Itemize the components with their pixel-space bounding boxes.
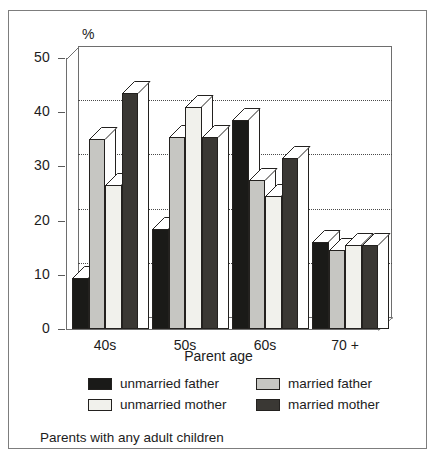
bar-married-father-50s[interactable] <box>169 137 186 329</box>
y-axis-tick-label: 30 <box>16 157 50 173</box>
y-axis-tick-mark <box>58 166 65 167</box>
bar-married-mother-40s[interactable] <box>122 93 139 329</box>
legend-swatch-icon <box>88 378 112 390</box>
bar-unmarried-mother-70+[interactable] <box>345 245 362 329</box>
bar-unmarried-father-60s[interactable] <box>232 120 249 329</box>
legend-swatch-icon <box>256 378 280 390</box>
bar-married-father-60s[interactable] <box>249 180 266 329</box>
y-axis-tick-label: 20 <box>16 212 50 228</box>
y-axis-tick-mark <box>58 221 65 222</box>
y-axis-unit-label: % <box>82 26 94 42</box>
bar-side-face <box>217 125 229 329</box>
legend-swatch-icon <box>88 399 112 411</box>
bar-unmarried-mother-50s[interactable] <box>185 107 202 329</box>
legend-label: unmarried mother <box>120 397 227 412</box>
y-axis-tick-mark <box>58 275 65 276</box>
bar-unmarried-father-50s[interactable] <box>152 229 169 329</box>
y-axis-tick-label: 40 <box>16 103 50 119</box>
legend-swatch-icon <box>256 399 280 411</box>
bar-married-mother-70+[interactable] <box>362 245 379 329</box>
bar-unmarried-mother-60s[interactable] <box>265 196 282 329</box>
plot-area <box>66 46 392 330</box>
bar-series-container <box>66 46 392 330</box>
chart-figure: % 50403020100 40s50s60s70 + Parent age u… <box>0 0 437 460</box>
y-axis-tick-mark <box>58 112 65 113</box>
bar-unmarried-father-40s[interactable] <box>72 278 89 329</box>
y-axis-tick-label: 0 <box>16 320 50 336</box>
bar-unmarried-father-70+[interactable] <box>312 242 329 329</box>
bar-married-father-70+[interactable] <box>329 250 346 329</box>
bar-married-mother-50s[interactable] <box>202 137 219 329</box>
legend-label: unmarried father <box>120 376 219 391</box>
y-axis-tick-label: 50 <box>16 49 50 65</box>
bar-married-mother-60s[interactable] <box>282 158 299 329</box>
legend-label: married father <box>288 376 372 391</box>
chart-legend: unmarried fathermarried fatherunmarried … <box>88 376 388 416</box>
legend-label: married mother <box>288 397 380 412</box>
chart-caption: Parents with any adult children <box>40 430 224 445</box>
y-axis-tick-label: 10 <box>16 266 50 282</box>
x-axis-title: Parent age <box>0 348 437 364</box>
bar-married-father-40s[interactable] <box>89 139 106 329</box>
bar-side-face <box>297 146 309 329</box>
bar-unmarried-mother-40s[interactable] <box>105 185 122 329</box>
y-axis-tick-mark <box>58 58 65 59</box>
y-axis-tick-mark <box>58 329 65 330</box>
bar-side-face <box>377 233 389 329</box>
bar-side-face <box>137 81 149 329</box>
